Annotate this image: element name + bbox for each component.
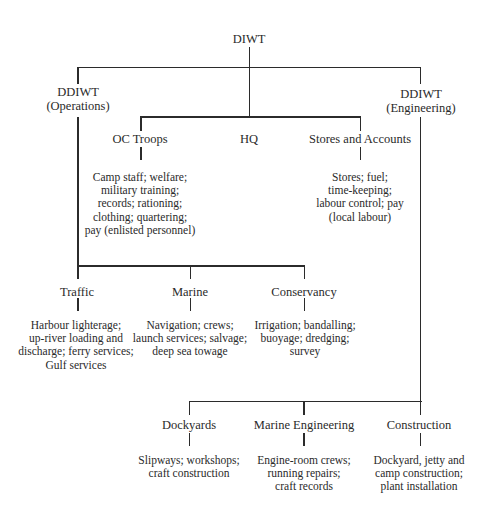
connector-dockyards: [189, 401, 191, 415]
desc-line: survey: [254, 345, 355, 358]
connector-eng-branches-bar: [189, 401, 422, 403]
desc-line: craft records: [257, 480, 351, 493]
connector-eng-down: [420, 117, 422, 402]
connector-construction: [420, 401, 422, 415]
desc-line: Dockyard, jetty and: [373, 454, 464, 467]
desc-line: plant installation: [373, 480, 464, 493]
connector-root-down: [249, 47, 251, 117]
connector-marine-desc: [190, 298, 192, 311]
node-sublabel: (Operations): [46, 99, 109, 113]
desc-oc-troops: Camp staff; welfare; military training; …: [85, 171, 196, 237]
connector-stores-desc: [360, 147, 362, 160]
connector-construction-desc: [420, 433, 422, 446]
desc-line: Camp staff; welfare;: [85, 171, 196, 184]
connector-conservancy: [304, 265, 306, 279]
desc-construction: Dockyard, jetty and camp construction; p…: [373, 454, 464, 494]
desc-line: military training;: [85, 184, 196, 197]
desc-marine: Navigation; crews; launch services; salv…: [133, 319, 247, 359]
desc-line: (local labour): [316, 211, 404, 224]
node-ddiwt-operations: DDIWT (Operations): [46, 85, 109, 113]
desc-line: time-keeping;: [316, 184, 404, 197]
connector-marine-eng-desc: [303, 433, 305, 446]
node-marine: Marine: [172, 285, 208, 299]
connector-stores: [360, 116, 362, 131]
desc-line: pay (enlisted personnel): [85, 224, 196, 237]
desc-dockyards: Slipways; workshops; craft construction: [138, 454, 239, 480]
desc-line: records; rationing;: [85, 197, 196, 210]
node-label: DDIWT: [386, 87, 455, 101]
connector-dockyards-desc: [189, 433, 191, 446]
node-label: DDIWT: [46, 85, 109, 99]
connector-marine-eng: [303, 401, 305, 415]
node-traffic: Traffic: [60, 285, 94, 299]
desc-line: up-river loading and: [18, 332, 133, 345]
connector-middle-bar: [140, 116, 361, 118]
org-chart: DIWT DDIWT (Operations) DDIWT (Engineeri…: [0, 0, 484, 516]
desc-line: labour control; pay: [316, 197, 404, 210]
connector-octroops: [140, 116, 142, 131]
desc-line: deep sea towage: [133, 345, 247, 358]
node-marine-engineering: Marine Engineering: [254, 418, 354, 432]
desc-line: Stores; fuel;: [316, 171, 404, 184]
desc-conservancy: Irrigation; bandalling; buoyage; dredgin…: [254, 319, 355, 359]
node-construction: Construction: [387, 418, 452, 432]
desc-line: Harbour lighterage;: [18, 319, 133, 332]
connector-deputies-bar: [77, 67, 421, 69]
desc-line: running repairs;: [257, 467, 351, 480]
desc-line: Gulf services: [18, 359, 133, 372]
desc-line: buoyage; dredging;: [254, 332, 355, 345]
node-dockyards: Dockyards: [162, 418, 216, 432]
connector-octroops-desc: [140, 147, 142, 160]
connector-conservancy-desc: [304, 298, 306, 311]
desc-line: Irrigation; bandalling;: [254, 319, 355, 332]
desc-line: launch services; salvage;: [133, 332, 247, 345]
desc-line: Slipways; workshops;: [138, 454, 239, 467]
desc-line: camp construction;: [373, 467, 464, 480]
desc-line: Engine-room crews;: [257, 454, 351, 467]
node-stores-accounts: Stores and Accounts: [309, 132, 411, 146]
node-conservancy: Conservancy: [271, 285, 336, 299]
node-sublabel: (Engineering): [386, 101, 455, 115]
connector-eng-top: [420, 67, 422, 84]
desc-stores-accounts: Stores; fuel; time-keeping; labour contr…: [316, 171, 404, 224]
desc-line: Navigation; crews;: [133, 319, 247, 332]
desc-marine-engineering: Engine-room crews; running repairs; craf…: [257, 454, 351, 494]
connector-traffic-desc: [77, 298, 79, 311]
desc-traffic: Harbour lighterage; up-river loading and…: [18, 319, 133, 372]
desc-line: craft construction: [138, 467, 239, 480]
node-diwt: DIWT: [233, 32, 266, 46]
desc-line: clothing; quartering;: [85, 211, 196, 224]
node-ddiwt-engineering: DDIWT (Engineering): [386, 87, 455, 115]
connector-marine: [190, 265, 192, 279]
node-hq: HQ: [240, 132, 258, 146]
connector-ops-top: [77, 67, 79, 84]
desc-line: discharge; ferry services;: [18, 345, 133, 358]
connector-traffic: [77, 265, 79, 279]
node-oc-troops: OC Troops: [112, 132, 167, 146]
connector-ops-down: [77, 117, 79, 266]
